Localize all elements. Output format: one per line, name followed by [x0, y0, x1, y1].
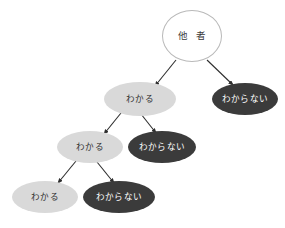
edges-group — [58, 60, 233, 183]
node-label-l3-wakaranai: わからない — [96, 193, 142, 202]
node-l2-wakaranai[interactable]: わからない — [128, 131, 196, 163]
node-label-l1-wakaranai: わからない — [222, 95, 268, 104]
node-l1-wakaranai[interactable]: わからない — [212, 83, 278, 115]
node-label-l2-wakaru: わかる — [76, 143, 104, 152]
edge-l2-to-l3-wakaranai — [97, 162, 114, 183]
node-l1-wakaru[interactable]: わかる — [104, 82, 176, 116]
node-root[interactable]: 他 者 — [162, 10, 222, 62]
edge-l1-to-l2-wakaranai — [141, 114, 156, 133]
node-l3-wakaru[interactable]: わかる — [12, 181, 78, 213]
edge-root-to-l1-wakaru — [155, 60, 176, 86]
edge-l2-to-l3-wakaru — [58, 161, 76, 183]
node-label-root: 他 者 — [176, 31, 209, 41]
edge-l1-to-l2-wakaru — [104, 113, 121, 134]
node-label-l1-wakaru: わかる — [126, 95, 154, 104]
node-label-l3-wakaru: わかる — [31, 193, 59, 202]
node-label-l2-wakaranai: わからない — [139, 143, 185, 152]
node-l3-wakaranai[interactable]: わからない — [83, 181, 155, 213]
edge-root-to-l1-wakaranai — [207, 60, 233, 85]
node-l2-wakaru[interactable]: わかる — [57, 131, 123, 163]
decision-tree-diagram: 他 者わかるわからないわかるわからないわかるわからない — [0, 0, 285, 228]
